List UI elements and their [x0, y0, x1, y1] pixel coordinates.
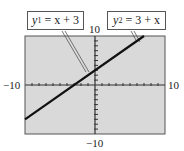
x-max-label: 10: [168, 80, 179, 91]
x-min-label: −10: [3, 80, 20, 91]
y-max-label: 10: [89, 24, 100, 35]
y1-rhs: = x + 3: [44, 13, 79, 28]
y2-equation-label: y2 = 3 + x: [107, 11, 166, 30]
y1-sub: 1: [37, 16, 41, 25]
y2-sub: 2: [118, 16, 122, 25]
y2-rhs: = 3 + x: [125, 13, 160, 28]
y-min-label: −10: [86, 138, 103, 149]
y1-equation-label: y1 = x + 3: [27, 11, 84, 30]
